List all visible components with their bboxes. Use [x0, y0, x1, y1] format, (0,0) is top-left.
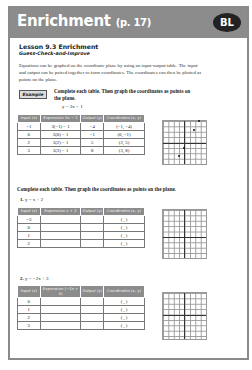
cell-coordinates-blank[interactable]: ( , )	[104, 322, 145, 330]
level-badge: BL	[213, 13, 241, 32]
cell-output-blank[interactable]	[81, 223, 104, 231]
table-row: 3 ( , )	[18, 322, 145, 330]
y-axis	[184, 210, 185, 258]
cell-output-blank[interactable]	[81, 239, 104, 247]
cell-coordinates-blank[interactable]: ( , )	[104, 215, 145, 223]
cell-output-blank[interactable]	[81, 306, 104, 314]
header-banner: Enrichment (p. 17) BL	[10, 8, 247, 38]
cell-expression-blank[interactable]	[40, 314, 81, 322]
cell-coordinates-blank[interactable]: ( , )	[104, 314, 145, 322]
cell-expression: 3(2) − 1	[40, 138, 81, 146]
exercises-instruction: Complete each table. Then graph the coor…	[17, 186, 247, 193]
col-coordinates: Coordinates (x, y)	[104, 115, 145, 123]
cell-input: 0	[18, 130, 41, 138]
cell-expression-blank[interactable]	[40, 322, 81, 330]
table-row: 1 ( , )	[18, 231, 145, 239]
cell-expression: 3(0) − 1	[40, 130, 81, 138]
example-tag: Example	[19, 90, 47, 99]
cell-expression: 3(−1) − 1	[40, 122, 81, 130]
problem-1-table: Input (x) Expression x + 2 Output (y) Co…	[17, 207, 145, 248]
problem-equation: y = x + 2	[25, 197, 43, 202]
cell-coordinates-blank[interactable]: ( , )	[104, 306, 145, 314]
cell-coordinates-blank[interactable]: ( , )	[104, 231, 145, 239]
cell-input: 3	[18, 322, 41, 330]
example-equation: y = 3x − 1	[62, 104, 83, 109]
cell-input: 2	[18, 138, 41, 146]
table-row: 1 ( , )	[18, 306, 145, 314]
cell-output-blank[interactable]	[81, 231, 104, 239]
problem-equation: y = −2x + 3	[25, 276, 48, 281]
cell-coordinates-blank[interactable]: ( , )	[104, 223, 145, 231]
cell-coordinates-blank[interactable]: ( , )	[104, 298, 145, 306]
cell-output-blank[interactable]	[81, 322, 104, 330]
cell-output-blank[interactable]	[81, 314, 104, 322]
cell-expression-blank[interactable]	[40, 231, 81, 239]
title-text: Enrichment	[17, 12, 111, 30]
col-expression: Expression x + 2	[40, 208, 81, 216]
cell-expression-blank[interactable]	[40, 239, 81, 247]
table-row: 2 ( , )	[18, 239, 145, 247]
col-input: Input (x)	[18, 115, 41, 123]
problem-1-label: 1. y = x + 2	[20, 197, 43, 202]
table-row: 2 3(2) − 1 5 (2, 5)	[18, 138, 145, 146]
cell-coordinates: (0, −1)	[104, 130, 145, 138]
table-row: 3 3(3) − 1 8 (3, 8)	[18, 146, 145, 154]
cell-output: −1	[81, 130, 104, 138]
cell-coordinates: (−1, −4)	[104, 122, 145, 130]
cell-output-blank[interactable]	[81, 298, 104, 306]
table-row: −3 ( , )	[18, 215, 145, 223]
example-instruction: Complete each table. Then graph the coor…	[54, 88, 194, 102]
cell-coordinates: (3, 8)	[104, 146, 145, 154]
problem-number: 2.	[20, 276, 24, 281]
cell-input: −3	[18, 215, 41, 223]
table-row: 0 ( , )	[18, 298, 145, 306]
table-row: 0 3(0) − 1 −1 (0, −1)	[18, 130, 145, 138]
plotted-point	[198, 120, 200, 122]
cell-expression-blank[interactable]	[40, 298, 81, 306]
cell-output: −4	[81, 122, 104, 130]
plotted-point	[193, 129, 195, 131]
cell-input: 3	[18, 146, 41, 154]
intro-paragraph: Equations can be graphed on the coordina…	[19, 62, 204, 83]
problem-1-coordinate-grid[interactable]	[162, 209, 207, 259]
page-reference: (p. 17)	[116, 17, 151, 28]
cell-output: 5	[81, 138, 104, 146]
cell-expression-blank[interactable]	[40, 223, 81, 231]
cell-input: 0	[18, 223, 41, 231]
col-coordinates: Coordinates (x, y)	[104, 208, 145, 216]
y-axis	[184, 293, 185, 339]
cell-input: 0	[18, 298, 41, 306]
col-input: Input (x)	[18, 208, 41, 216]
col-expression: Expression (−2x + 3)	[40, 286, 81, 298]
col-output: Output (y)	[81, 286, 104, 298]
cell-input: 1	[18, 231, 41, 239]
problem-number: 1.	[20, 197, 24, 202]
col-expression: Expression 3x − 1	[40, 115, 81, 123]
col-input: Input (x)	[18, 286, 41, 298]
lesson-title: Lesson 9.3 Enrichment	[19, 43, 98, 50]
col-output: Output (y)	[81, 115, 104, 123]
cell-output: 8	[81, 146, 104, 154]
y-axis	[184, 121, 185, 164]
cell-coordinates-blank[interactable]: ( , )	[104, 239, 145, 247]
table-row: 2 ( , )	[18, 314, 145, 322]
table-row: 0 ( , )	[18, 223, 145, 231]
table-row: −1 3(−1) − 1 −4 (−1, −4)	[18, 122, 145, 130]
page-title: Enrichment (p. 17)	[17, 12, 151, 30]
cell-input: −1	[18, 122, 41, 130]
problem-2-label: 2. y = −2x + 3	[20, 276, 48, 281]
cell-output-blank[interactable]	[81, 215, 104, 223]
problem-2-table: Input (x) Expression (−2x + 3) Output (y…	[17, 285, 145, 330]
col-coordinates: Coordinates (x, y)	[104, 286, 145, 298]
example-coordinate-grid	[162, 120, 207, 165]
cell-expression-blank[interactable]	[40, 215, 81, 223]
col-output: Output (y)	[81, 208, 104, 216]
cell-input: 1	[18, 306, 41, 314]
worksheet-page: Enrichment (p. 17) BL Lesson 9.3 Enrichm…	[8, 6, 249, 360]
plotted-point	[178, 155, 180, 157]
cell-expression-blank[interactable]	[40, 306, 81, 314]
cell-input: 2	[18, 239, 41, 247]
example-table: Input (x) Expression 3x − 1 Output (y) C…	[17, 114, 145, 155]
problem-2-coordinate-grid[interactable]	[162, 292, 207, 340]
cell-coordinates: (2, 5)	[104, 138, 145, 146]
